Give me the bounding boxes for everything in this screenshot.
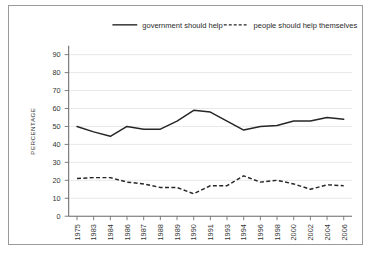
y-tick-label: 0 <box>57 212 61 221</box>
x-tick-label: 2006 <box>339 224 348 240</box>
y-tick-label: 50 <box>53 122 61 131</box>
legend-label-1: people should help themselves <box>254 21 358 30</box>
line-chart-svg: government should help people should hel… <box>9 6 362 244</box>
x-tick-label: 1986 <box>123 224 132 240</box>
x-tick-label: 1998 <box>273 224 282 240</box>
y-tick-label: 10 <box>53 194 61 203</box>
series-line-people-should-help-themselves <box>77 176 344 194</box>
x-tick-label: 1984 <box>106 224 115 240</box>
y-tickmarks <box>65 55 69 217</box>
y-tick-label: 40 <box>53 140 61 149</box>
x-tick-label: 1987 <box>139 224 148 240</box>
x-tick-label: 1989 <box>173 224 182 240</box>
y-tick-label: 60 <box>53 104 61 113</box>
y-tick-label: 90 <box>53 50 61 59</box>
x-tick-label: 1994 <box>239 224 248 240</box>
chart-figure: government should help people should hel… <box>0 0 372 266</box>
y-axis-title: PERCENTAGE <box>29 107 36 154</box>
y-tick-label: 20 <box>53 176 61 185</box>
legend: government should help people should hel… <box>112 21 357 30</box>
y-tick-labels: 0102030405060708090 <box>53 50 61 221</box>
y-tick-label: 30 <box>53 158 61 167</box>
chart-frame: government should help people should hel… <box>8 5 363 245</box>
x-tick-label: 1975 <box>73 224 82 240</box>
x-tick-label: 1996 <box>256 224 265 240</box>
x-tick-label: 1991 <box>206 224 215 240</box>
x-tick-label: 1988 <box>156 224 165 240</box>
x-tick-labels: 1975198319841986198719881989199019911993… <box>73 224 349 240</box>
series-line-government-should-help <box>77 110 344 136</box>
x-tickmarks <box>77 216 344 220</box>
x-tick-label: 1993 <box>223 224 232 240</box>
x-tick-label: 2002 <box>306 224 315 240</box>
x-tick-label: 1983 <box>89 224 98 240</box>
y-tick-label: 80 <box>53 68 61 77</box>
x-tick-label: 1990 <box>189 224 198 240</box>
legend-label-0: government should help <box>142 21 222 30</box>
x-tick-label: 2004 <box>323 224 332 240</box>
y-tick-label: 70 <box>53 86 61 95</box>
x-tick-label: 2000 <box>289 224 298 240</box>
